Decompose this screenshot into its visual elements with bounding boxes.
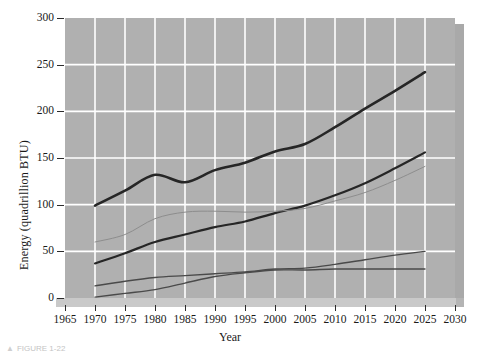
y-tick-label: 250 xyxy=(20,59,54,71)
y-tick-label: 100 xyxy=(20,199,54,211)
caption-marker-icon: ▲ xyxy=(6,344,14,353)
x-tick-mark xyxy=(125,305,126,311)
panel-depth-right xyxy=(455,24,464,306)
y-tick-mark xyxy=(57,158,64,159)
y-tick-mark xyxy=(57,18,64,19)
y-tick-label: 50 xyxy=(20,245,54,257)
y-tick-label: 150 xyxy=(20,152,54,164)
x-axis-title: Year xyxy=(200,330,260,345)
data-line-lower-energy-b xyxy=(95,269,425,297)
y-tick-label: 200 xyxy=(20,105,54,117)
y-tick-mark xyxy=(57,251,64,252)
x-tick-mark xyxy=(95,305,96,311)
plot-svg xyxy=(65,18,455,298)
figure-caption: ▲FIGURE 1-22 xyxy=(6,344,65,353)
y-tick-mark xyxy=(57,298,64,299)
panel-depth-corner xyxy=(455,298,464,307)
figure-container: Energy (quadrillion BTU) Year ▲FIGURE 1-… xyxy=(0,0,487,356)
x-tick-mark xyxy=(245,305,246,311)
x-tick-label: 2030 xyxy=(435,314,475,326)
y-tick-mark xyxy=(57,205,64,206)
panel-depth-bottom xyxy=(56,298,456,307)
y-tick-mark xyxy=(57,65,64,66)
x-tick-mark xyxy=(185,305,186,311)
x-tick-mark xyxy=(305,305,306,311)
x-tick-mark xyxy=(395,305,396,311)
data-line-upper-mid-energy xyxy=(95,152,425,263)
x-tick-mark xyxy=(275,305,276,311)
x-tick-mark xyxy=(65,305,66,311)
y-tick-label: 300 xyxy=(20,12,54,24)
plot-panel xyxy=(65,18,455,298)
y-tick-mark xyxy=(57,111,64,112)
caption-text: FIGURE 1-22 xyxy=(17,344,65,353)
x-tick-mark xyxy=(455,305,456,311)
data-line-total-energy xyxy=(95,72,425,205)
x-tick-mark xyxy=(365,305,366,311)
x-tick-mark xyxy=(335,305,336,311)
x-tick-mark xyxy=(425,305,426,311)
x-tick-mark xyxy=(215,305,216,311)
x-tick-mark xyxy=(155,305,156,311)
y-tick-label: 0 xyxy=(20,292,54,304)
